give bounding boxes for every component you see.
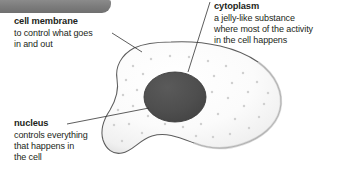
label-cytoplasm-body: a jelly-like substance where most of the… xyxy=(214,13,313,47)
label-cytoplasm-line-2: where most of the activity xyxy=(214,24,313,35)
label-nucleus: nucleus controls everything that happens… xyxy=(14,118,88,163)
label-cytoplasm-title: cytoplasm xyxy=(214,1,313,12)
label-nucleus-line-3: the cell xyxy=(14,152,88,163)
label-cell-membrane-line-2: in and out xyxy=(14,39,93,50)
label-cytoplasm-line-3: in the cell happens xyxy=(214,35,313,46)
label-cell-membrane-title: cell membrane xyxy=(14,16,93,27)
label-cell-membrane: cell membrane to control what goes in an… xyxy=(14,16,93,50)
cell-diagram-figure: cell membrane to control what goes in an… xyxy=(0,0,359,181)
nucleus-shape xyxy=(144,72,206,122)
label-cell-membrane-body: to control what goes in and out xyxy=(14,28,93,50)
label-nucleus-body: controls everything that happens in the … xyxy=(14,130,88,164)
label-nucleus-line-1: controls everything xyxy=(14,130,88,141)
label-cell-membrane-line-1: to control what goes xyxy=(14,28,93,39)
label-nucleus-title: nucleus xyxy=(14,118,88,129)
label-cytoplasm-line-1: a jelly-like substance xyxy=(214,13,313,24)
label-nucleus-line-2: that happens in xyxy=(14,141,88,152)
label-cytoplasm: cytoplasm a jelly-like substance where m… xyxy=(214,1,313,46)
leader-line-cell-membrane xyxy=(112,33,142,52)
